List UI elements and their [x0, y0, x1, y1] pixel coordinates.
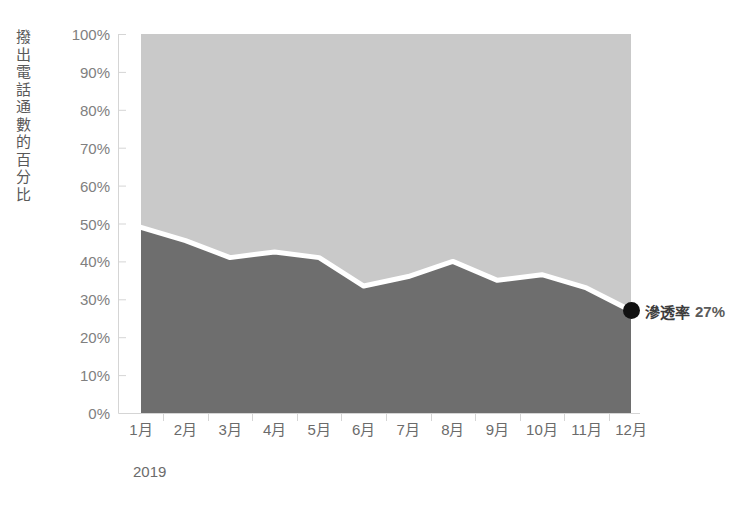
end-point-annotation: 滲透率 27% [645, 301, 725, 322]
x-axis-tick-label: 7月 [397, 418, 420, 439]
x-axis-tick-label: 12月 [615, 418, 647, 439]
x-axis-tick-label: 1月 [129, 418, 152, 439]
plot-area [141, 34, 631, 413]
x-axis-tick-label: 11月 [571, 418, 602, 439]
year-caption: 2019 [133, 463, 166, 480]
y-axis-ticks [119, 35, 127, 414]
x-axis-tick-label: 6月 [352, 418, 375, 439]
annotation-label: 滲透率 [645, 301, 690, 322]
penetration-rate-area-chart: 撥出電話通數的百分比 0%10%20%30%40%50%60%70%80%90%… [0, 0, 751, 511]
x-axis-tick-labels: 1月2月3月4月5月6月7月8月9月10月11月12月 [141, 418, 631, 442]
x-axis-tick-label: 2月 [174, 418, 197, 439]
end-point-marker-icon [623, 302, 640, 319]
x-axis-tick-label: 9月 [486, 418, 509, 439]
x-axis-tick-label: 10月 [526, 418, 558, 439]
x-axis-tick-label: 5月 [308, 418, 331, 439]
annotation-value: 27% [695, 303, 725, 320]
x-axis-tick-label: 8月 [441, 418, 464, 439]
x-axis-tick-label: 4月 [263, 418, 286, 439]
x-axis-tick-label: 3月 [218, 418, 241, 439]
